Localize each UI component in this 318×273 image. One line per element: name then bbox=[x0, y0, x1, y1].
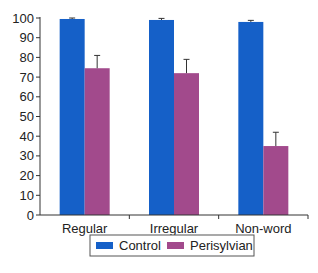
legend-swatch-control bbox=[96, 242, 113, 249]
bar-chart: 0102030405060708090100 RegularIrregularN… bbox=[0, 0, 318, 273]
y-tick-label: 80 bbox=[20, 50, 34, 65]
legend-label-perisylvian: Perisylvian bbox=[190, 238, 253, 253]
legend-label-control: Control bbox=[119, 238, 161, 253]
y-tick-label: 70 bbox=[20, 70, 34, 85]
y-tick-label: 90 bbox=[20, 30, 34, 45]
legend-swatch-perisylvian bbox=[167, 242, 184, 249]
bar-perisylvian-non-word bbox=[263, 146, 288, 215]
bar-control-irregular bbox=[149, 20, 174, 215]
bar-control-regular bbox=[60, 19, 85, 215]
y-tick-label: 20 bbox=[20, 168, 34, 183]
y-tick-label: 30 bbox=[20, 148, 34, 163]
y-tick-label: 60 bbox=[20, 89, 34, 104]
x-category-label: Irregular bbox=[150, 221, 199, 236]
bars bbox=[60, 18, 289, 215]
x-axis: RegularIrregularNon-word bbox=[40, 215, 308, 236]
bar-control-non-word bbox=[238, 22, 263, 215]
y-tick-label: 0 bbox=[27, 208, 34, 223]
y-tick-label: 40 bbox=[20, 129, 34, 144]
bar-perisylvian-regular bbox=[85, 68, 110, 215]
y-tick-label: 50 bbox=[20, 109, 34, 124]
x-category-label: Non-word bbox=[235, 221, 291, 236]
bar-perisylvian-irregular bbox=[174, 73, 199, 215]
legend: ControlPerisylvian bbox=[90, 235, 254, 256]
y-tick-label: 100 bbox=[12, 11, 34, 26]
y-tick-label: 10 bbox=[20, 188, 34, 203]
x-category-label: Regular bbox=[62, 221, 108, 236]
y-axis: 0102030405060708090100 bbox=[12, 11, 40, 223]
